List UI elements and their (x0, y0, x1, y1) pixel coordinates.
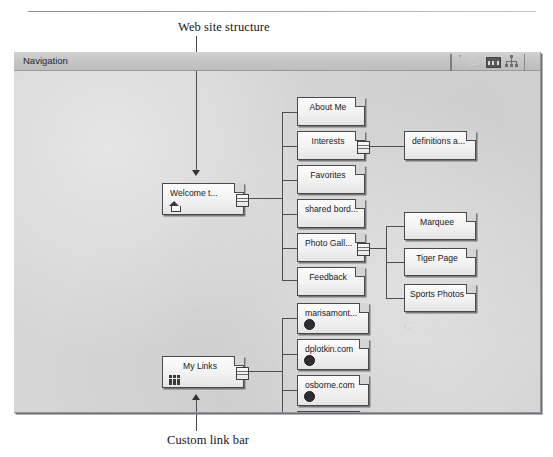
new-page-icon[interactable] (448, 55, 461, 68)
connector-spur-tiger-page (386, 262, 404, 263)
node-label: Marquee (405, 217, 469, 227)
page-fold-icon (359, 411, 369, 412)
node-label: dplotkin.com (305, 344, 362, 354)
sitemap-icon[interactable] (505, 55, 518, 68)
connector-bus-custom-links (282, 318, 283, 412)
expand-handle[interactable] (357, 243, 370, 256)
node-sports-photos[interactable]: Sports Photos (404, 284, 476, 312)
page-horizontal-rule (28, 11, 536, 12)
connector-spur-feedback (282, 280, 297, 281)
node-label: marisamont... (305, 308, 362, 318)
node-tiger-page[interactable]: Tiger Page (404, 248, 476, 276)
connector-spur-marquee (386, 226, 404, 227)
caption-leader-line-top (196, 36, 197, 53)
node-label: Feedback (298, 272, 358, 282)
connector-spur-favorites (282, 180, 297, 181)
connector-spur-osborne (282, 390, 297, 391)
filmstrip-icon[interactable] (486, 55, 499, 68)
node-label: shared bord... (305, 204, 358, 214)
caption-custom-link-bar: Custom link bar (167, 433, 249, 448)
globe-icon[interactable] (467, 55, 480, 68)
node-label: osborne.com (305, 380, 362, 390)
caption-leader-in-canvas-bottom (196, 400, 197, 412)
node-interests[interactable]: Interests (297, 131, 365, 160)
caption-leader-line-bottom (196, 412, 197, 431)
node-feedback[interactable]: Feedback (297, 267, 365, 296)
node-shared-borders[interactable]: shared bord... (297, 199, 365, 228)
node-link-sfdama[interactable]: sfdama.org (297, 411, 369, 412)
node-marquee[interactable]: Marquee (404, 212, 476, 240)
node-label: Photo Gall... (305, 238, 358, 248)
home-icon (169, 201, 180, 211)
window-titlebar: Navigation (14, 52, 540, 71)
window-title: Navigation (23, 55, 68, 66)
connector-spur-shared-borders (282, 214, 297, 215)
connector-spur-photo-gallery (282, 248, 297, 249)
node-label: Interests (298, 136, 358, 146)
caption-web-site-structure: Web site structure (178, 20, 270, 35)
node-photo-gallery[interactable]: Photo Gall... (297, 233, 365, 262)
connector-bus-level2 (282, 112, 283, 280)
node-my-links[interactable]: My Links (162, 356, 244, 388)
navigation-canvas[interactable]: C Wel (14, 71, 540, 412)
connector-spur-about-me (282, 112, 297, 113)
expand-handle[interactable] (357, 141, 370, 154)
navigation-window: Navigation (14, 52, 541, 413)
node-favorites[interactable]: Favorites (297, 165, 365, 194)
connector-spur-marisamont (282, 318, 297, 319)
node-label: definitions a... (412, 136, 469, 146)
node-link-dplotkin[interactable]: dplotkin.com (297, 339, 369, 370)
connector-spur-interests (282, 146, 297, 147)
node-label: My Links (163, 361, 237, 371)
node-link-marisamont[interactable]: marisamont... (297, 303, 369, 334)
connector-interests-to-definitions (366, 146, 404, 147)
page-showthrough-text: C (404, 319, 412, 331)
link-dot-icon (304, 391, 315, 402)
node-definitions[interactable]: definitions a... (404, 131, 476, 160)
connector-spur-dplotkin (282, 354, 297, 355)
expand-handle[interactable] (236, 194, 249, 207)
caption-leader-in-canvas-top (196, 71, 197, 171)
node-about-me[interactable]: About Me (297, 97, 365, 126)
node-label: About Me (298, 102, 358, 112)
node-welcome-home[interactable]: Welcome t... (162, 183, 244, 215)
node-label: Favorites (298, 170, 358, 180)
node-label: Welcome t... (170, 188, 237, 198)
node-label: Sports Photos (405, 289, 469, 299)
window-toolbar (448, 54, 537, 69)
expand-handle[interactable] (236, 367, 249, 380)
link-dot-icon (304, 355, 315, 366)
connector-home-to-bus (244, 198, 282, 199)
node-link-osborne[interactable]: osborne.com (297, 375, 369, 406)
connector-mylinks-to-bus (244, 371, 282, 372)
link-dot-icon (304, 319, 315, 330)
page-partial-icon[interactable] (524, 55, 537, 68)
node-label: Tiger Page (405, 253, 469, 263)
link-bar-icon (169, 375, 180, 385)
connector-spur-sports-photos (386, 298, 404, 299)
